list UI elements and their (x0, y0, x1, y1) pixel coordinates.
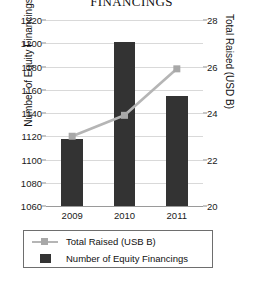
right-tickmark (203, 113, 207, 114)
x-axis-labels: 2009 2010 2011 (46, 208, 203, 224)
line-swatch (32, 237, 58, 246)
plot-area (46, 20, 203, 206)
line-marker-2009 (69, 133, 76, 140)
right-tick-label: 24 (207, 108, 218, 119)
line-swatch-marker (41, 238, 48, 245)
x-tick-2009: 2009 (62, 210, 83, 221)
right-tick-label: 28 (207, 15, 218, 26)
chart-figure: FINANCINGS 1060 1080 1100 1120 1140 1160… (0, 0, 263, 287)
bar-swatch (40, 254, 51, 263)
line-path (72, 69, 177, 136)
line-marker-2011 (173, 65, 180, 72)
line-marker-2010 (121, 112, 128, 119)
right-tick-label: 22 (207, 154, 218, 165)
total-raised-line-series (46, 20, 203, 206)
x-tick-2011: 2011 (167, 210, 187, 221)
left-tick-label: 1060 (21, 201, 42, 212)
left-tick-label: 1100 (22, 154, 42, 165)
right-tickmark (203, 206, 207, 207)
line-marker-key-icon (24, 237, 66, 246)
right-tickmark (203, 159, 207, 160)
right-tickmark (203, 66, 207, 67)
line-markers (69, 65, 181, 139)
legend-label-total-raised: Total Raised (USB B) (66, 236, 156, 247)
left-tick-label: 1080 (21, 177, 42, 188)
left-axis-ticks: 1060 1080 1100 1120 1140 1160 1180 1200 … (0, 20, 42, 206)
right-tick-label: 20 (207, 201, 218, 212)
right-axis-title: Total Raised (USD B) (224, 0, 235, 137)
square-key-icon (24, 254, 66, 263)
right-tickmark (203, 20, 207, 21)
axis-baseline (46, 206, 203, 207)
chart-legend: Total Raised (USB B) Number of Equity Fi… (23, 230, 213, 268)
legend-item-equity-financings: Number of Equity Financings (24, 250, 212, 267)
right-tick-label: 26 (207, 61, 218, 72)
left-axis-title: Number of Equity Financings (23, 0, 34, 138)
legend-item-total-raised: Total Raised (USB B) (24, 233, 212, 250)
legend-label-equity-financings: Number of Equity Financings (66, 253, 188, 264)
x-tick-2010: 2010 (114, 210, 135, 221)
